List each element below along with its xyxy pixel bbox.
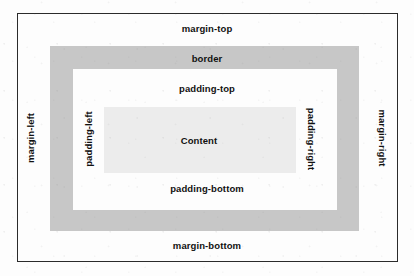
label-padding-right: padding-right xyxy=(306,108,317,171)
label-margin-right: margin-right xyxy=(377,109,388,166)
label-border: border xyxy=(192,53,223,64)
label-padding-bottom: padding-bottom xyxy=(170,183,244,194)
label-content: Content xyxy=(181,135,218,146)
label-padding-left: padding-left xyxy=(83,111,94,167)
label-margin-top: margin-top xyxy=(182,23,233,34)
label-margin-bottom: margin-bottom xyxy=(173,240,241,251)
label-padding-top: padding-top xyxy=(179,83,235,94)
label-margin-left: margin-left xyxy=(25,113,36,163)
css-box-model-diagram: margin-top border padding-top Content pa… xyxy=(0,0,414,276)
